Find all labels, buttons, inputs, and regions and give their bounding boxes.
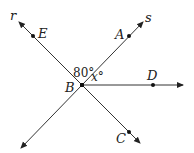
label-d: D	[146, 68, 158, 83]
label-e: E	[37, 26, 48, 41]
geometry-diagram: r E s A B D C 80° x°	[0, 0, 194, 153]
point-c	[127, 130, 131, 134]
angle-x-label: x°	[91, 70, 104, 84]
label-r: r	[10, 8, 17, 23]
angle-x-degree: °	[98, 70, 104, 84]
label-b: B	[64, 80, 75, 95]
point-b	[80, 83, 84, 87]
label-s: s	[145, 10, 152, 25]
label-a: A	[114, 27, 124, 42]
line-r-lower	[82, 85, 140, 143]
label-c: C	[116, 131, 126, 146]
point-a	[127, 34, 131, 38]
point-e	[31, 34, 35, 38]
point-d	[151, 83, 155, 87]
